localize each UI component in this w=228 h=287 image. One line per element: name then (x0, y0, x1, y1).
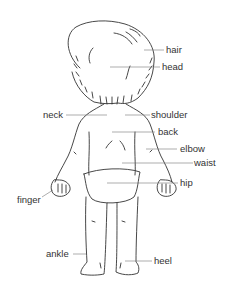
leader-lines (42, 50, 193, 261)
label-head: head (162, 62, 183, 72)
head-drawing (68, 21, 154, 104)
label-elbow: elbow (180, 144, 205, 154)
label-heel: heel (154, 256, 172, 266)
label-shoulder: shoulder (151, 110, 187, 120)
hands-drawing (51, 180, 176, 196)
label-ankle: ankle (46, 249, 69, 259)
body-parts-diagram: hair head neck shoulder back elbow waist… (0, 0, 228, 287)
label-hair: hair (166, 45, 182, 55)
label-neck: neck (43, 110, 63, 120)
legs-drawing (81, 197, 139, 275)
label-hip: hip (180, 178, 193, 188)
label-finger: finger (17, 195, 41, 205)
diaper-drawing (84, 169, 140, 203)
label-waist: waist (194, 158, 216, 168)
label-back: back (158, 127, 178, 137)
